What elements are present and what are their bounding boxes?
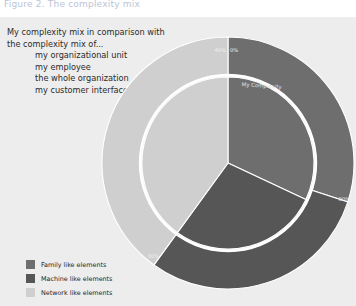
legend: Family like elements Machine like elemen… xyxy=(26,258,166,300)
legend-swatch-family xyxy=(26,260,35,269)
legend-item-machine[interactable]: Machine like elements xyxy=(26,272,166,285)
legend-swatch-machine xyxy=(26,274,35,283)
inner-pie-group xyxy=(142,77,314,249)
legend-item-network[interactable]: Network like elements xyxy=(26,286,166,299)
legend-item-family[interactable]: Family like elements xyxy=(26,258,166,271)
outer-tick-label-0: 0% xyxy=(230,47,238,53)
legend-swatch-network xyxy=(26,288,35,297)
outer-tick-label-3: 40% xyxy=(214,47,226,53)
complexity-mix-donut-chart: 0%30%30%40% My Complexity xyxy=(100,35,356,291)
legend-label-network: Network like elements xyxy=(41,289,112,297)
legend-label-family: Family like elements xyxy=(41,261,106,269)
outer-tick-label-1: 30% xyxy=(338,196,350,202)
legend-label-machine: Machine like elements xyxy=(41,275,112,283)
figure-title: Figure 2. The complexity mix xyxy=(4,0,140,9)
